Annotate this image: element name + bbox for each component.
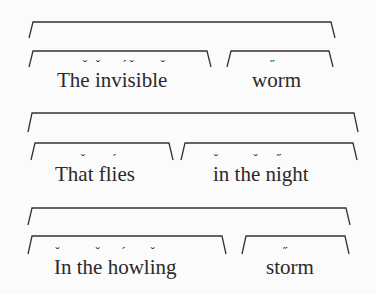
line-bracket bbox=[28, 113, 358, 132]
double-stress-mark-icon: ˝ bbox=[270, 58, 274, 71]
line-bracket bbox=[29, 22, 335, 38]
breve-mark-icon: ˇ bbox=[96, 58, 100, 71]
phrase-bracket bbox=[242, 236, 349, 254]
stress-mark-icon: ´ bbox=[123, 58, 127, 71]
verse-phrase: Iˇn theˇ ho´wliˇng bbox=[54, 257, 177, 278]
breve-mark-icon: ˇ bbox=[55, 245, 59, 258]
phrase-bracket bbox=[227, 51, 333, 67]
breve-mark-icon: ˇ bbox=[150, 245, 154, 258]
verse-phrase: iˇn theˇ ni˝ght bbox=[213, 164, 309, 185]
line-bracket bbox=[28, 208, 350, 225]
phrase-bracket bbox=[31, 143, 173, 160]
stress-mark-icon: ´ bbox=[112, 152, 116, 165]
breve-mark-icon: ˇ bbox=[83, 58, 87, 71]
breve-mark-icon: ˇ bbox=[253, 152, 257, 165]
breve-mark-icon: ˇ bbox=[160, 58, 164, 71]
phrase-bracket bbox=[181, 143, 357, 160]
double-stress-mark-icon: ˝ bbox=[277, 152, 281, 165]
verse-phrase: wo˝rm bbox=[252, 70, 301, 91]
stress-mark-icon: ´ bbox=[121, 245, 125, 258]
breve-mark-icon: ˇ bbox=[96, 245, 100, 258]
phrase-bracket bbox=[29, 51, 211, 67]
breve-mark-icon: ˇ bbox=[130, 58, 134, 71]
verse-phrase: Thaˇt fli´es bbox=[55, 164, 135, 185]
double-stress-mark-icon: ˝ bbox=[283, 245, 287, 258]
breve-mark-icon: ˇ bbox=[81, 152, 85, 165]
verse-phrase: Theˇ iˇnvi´sˇibleˇ bbox=[57, 70, 167, 91]
verse-phrase: sto˝rm bbox=[266, 257, 314, 278]
breve-mark-icon: ˇ bbox=[214, 152, 218, 165]
